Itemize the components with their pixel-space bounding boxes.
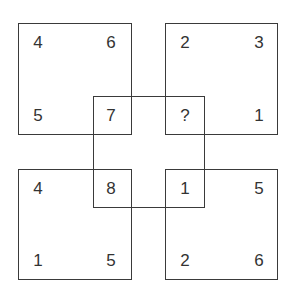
number-bottom-left-br: 5 [101, 252, 121, 269]
number-bottom-right-bl: 2 [175, 252, 195, 269]
number-top-right-br: 1 [249, 107, 269, 124]
number-top-left-tr: 6 [101, 34, 121, 51]
number-bottom-right-tl: 1 [175, 180, 195, 197]
number-top-right-tr: 3 [249, 34, 269, 51]
number-top-left-br: 7 [101, 107, 121, 124]
number-bottom-left-bl: 1 [28, 252, 48, 269]
number-top-right-tl: 2 [175, 34, 195, 51]
number-top-left-tl: 4 [28, 34, 48, 51]
number-bottom-left-tr: 8 [101, 180, 121, 197]
number-top-left-bl: 5 [28, 107, 48, 124]
number-bottom-right-br: 6 [249, 252, 269, 269]
number-bottom-right-tr: 5 [249, 180, 269, 197]
number-bottom-left-tl: 4 [28, 180, 48, 197]
number-top-right-bl: ? [175, 107, 195, 124]
